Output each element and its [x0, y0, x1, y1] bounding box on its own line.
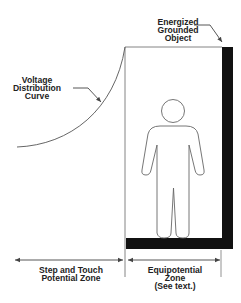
equipotential-zone-label: Equipotential Zone (See text.) — [148, 265, 202, 291]
equipotential-zone-diagram: Energized Grounded Object Voltage Distri… — [0, 0, 241, 303]
grounded-object-base-bar — [126, 238, 233, 249]
step-touch-zone-label: Step and Touch Potential Zone — [39, 265, 103, 283]
grounded-object-vertical-bar — [222, 47, 233, 249]
label-see-text: (See text.) — [154, 281, 195, 291]
energized-object-label: Energized Grounded Object — [157, 17, 198, 43]
person-figure — [142, 100, 204, 239]
person-head — [162, 100, 185, 123]
voltage-curve-label: Voltage Distribution Curve — [13, 75, 61, 101]
label-potential-zone: Potential Zone — [41, 273, 100, 283]
voltage-curve-leader-arrow — [73, 88, 101, 102]
label-object: Object — [165, 33, 192, 43]
person-body-outline — [142, 126, 204, 238]
label-curve: Curve — [25, 91, 50, 101]
